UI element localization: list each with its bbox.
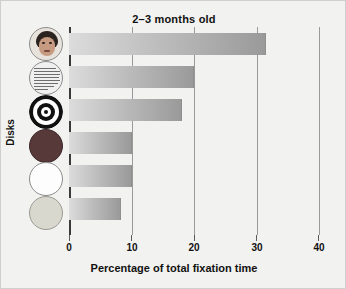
x-tick-label-20: 20 xyxy=(179,242,209,253)
bar-row xyxy=(69,33,266,55)
yellow-disk-icon xyxy=(29,196,63,230)
bar-white-disk xyxy=(69,165,132,187)
gridline-10 xyxy=(132,27,133,235)
x-tick-label-40: 40 xyxy=(304,242,334,253)
bar-row xyxy=(69,165,132,187)
x-tick-mark-20 xyxy=(194,235,195,241)
bar-face xyxy=(69,33,266,55)
y-axis-label: Disks xyxy=(5,108,16,158)
gridline-20 xyxy=(194,27,195,235)
face-disk-icon xyxy=(29,27,63,61)
chart-title: 2–3 months old xyxy=(1,13,346,25)
bar-yellow-disk xyxy=(69,198,121,220)
bullseye-disk-icon xyxy=(29,95,63,129)
face-eye-right xyxy=(49,42,52,44)
gridline-30 xyxy=(257,27,258,235)
x-tick-label-30: 30 xyxy=(242,242,272,253)
x-tick-label-10: 10 xyxy=(117,242,147,253)
chart-figure: 2–3 months old Disks 0 10 xyxy=(0,0,346,289)
bar-printed-text xyxy=(69,66,194,88)
bar-row xyxy=(69,99,182,121)
bar-red-disk xyxy=(69,132,132,154)
x-tick-label-0: 0 xyxy=(54,242,84,253)
x-tick-mark-10 xyxy=(131,235,132,241)
bar-row xyxy=(69,198,121,220)
bar-row xyxy=(69,132,132,154)
x-tick-mark-0 xyxy=(69,235,70,241)
bullseye-ring-5 xyxy=(44,110,48,114)
gridline-40 xyxy=(319,27,320,235)
face-skin xyxy=(39,37,55,56)
x-tick-mark-40 xyxy=(318,235,319,241)
bar-row xyxy=(69,66,194,88)
face-mouth xyxy=(44,50,50,52)
white-disk-icon xyxy=(29,162,63,196)
printed-text-disk-icon xyxy=(29,61,63,95)
plot-area xyxy=(69,31,319,231)
red-disk-icon xyxy=(29,129,63,163)
bar-bullseye xyxy=(69,99,182,121)
x-axis-label: Percentage of total fixation time xyxy=(1,262,346,274)
face-eye-left xyxy=(42,42,45,44)
x-tick-mark-30 xyxy=(256,235,257,241)
